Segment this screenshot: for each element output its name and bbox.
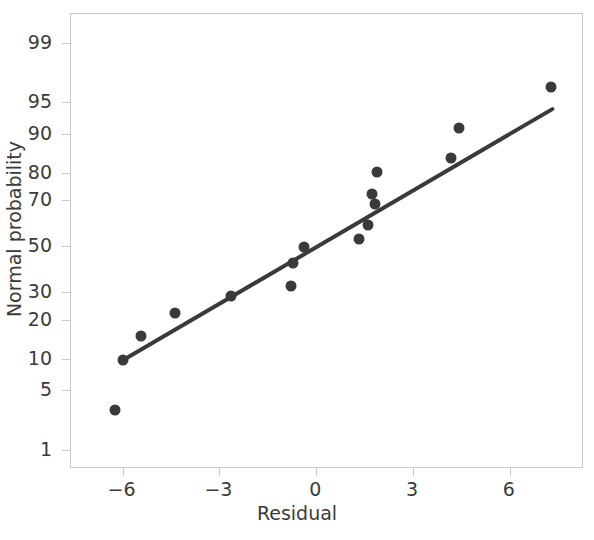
data-point — [371, 166, 382, 177]
data-point — [169, 307, 180, 318]
data-point — [226, 291, 237, 302]
data-point — [286, 281, 297, 292]
data-point — [298, 242, 309, 253]
y-axis-tick — [62, 359, 71, 360]
y-axis-title: Normal probability — [3, 129, 25, 329]
data-point — [453, 122, 464, 133]
y-axis-tick-label: 90 — [28, 122, 52, 144]
y-axis-tick — [62, 43, 71, 44]
x-axis-title: Residual — [0, 502, 594, 524]
y-axis-tick — [62, 390, 71, 391]
y-axis-tick — [62, 200, 71, 201]
x-axis-tick-label: −3 — [204, 478, 232, 500]
y-axis-tick-label: 1 — [40, 438, 52, 460]
y-axis-tick-label: 80 — [28, 161, 52, 183]
y-axis-tick — [62, 292, 71, 293]
plot-area — [70, 13, 583, 468]
data-point — [366, 189, 377, 200]
data-point — [545, 81, 556, 92]
y-axis-tick-label: 10 — [28, 347, 52, 369]
data-point — [135, 331, 146, 342]
x-axis-tick-labels: −6−3036 — [70, 474, 583, 504]
y-axis-tick — [62, 173, 71, 174]
y-axis-tick-label: 70 — [28, 188, 52, 210]
y-axis-tick-label: 99 — [28, 31, 52, 53]
data-point — [353, 233, 364, 244]
normal-probability-plot: 15102030507080909599 −6−3036 Residual No… — [0, 0, 594, 540]
x-axis-tick-label: 0 — [309, 478, 321, 500]
x-axis-tick-label: 6 — [503, 478, 515, 500]
data-point — [363, 220, 374, 231]
data-point — [445, 153, 456, 164]
data-point — [369, 199, 380, 210]
y-axis-tick — [62, 320, 71, 321]
y-axis-tick-label: 20 — [28, 308, 52, 330]
y-axis-tick — [62, 102, 71, 103]
y-axis-tick-label: 95 — [28, 90, 52, 112]
y-axis-tick — [62, 246, 71, 247]
y-axis-tick-label: 5 — [40, 378, 52, 400]
y-axis-tick-label: 50 — [28, 234, 52, 256]
data-point — [287, 257, 298, 268]
y-axis-tick-label: 30 — [28, 280, 52, 302]
data-point — [118, 355, 129, 366]
x-axis-tick-label: −6 — [108, 478, 136, 500]
data-point — [110, 405, 121, 416]
x-axis-tick-label: 3 — [406, 478, 418, 500]
y-axis-tick — [62, 134, 71, 135]
y-axis-tick — [62, 450, 71, 451]
